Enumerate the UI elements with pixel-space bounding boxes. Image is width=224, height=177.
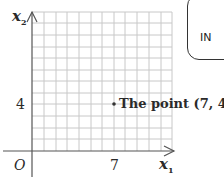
grid-lines: [32, 12, 172, 151]
point-label: The point (7, 4): [119, 97, 224, 110]
y-tick-label: 4: [16, 97, 25, 111]
callout-text: IN: [200, 31, 211, 44]
x-tick-label: 7: [110, 158, 119, 172]
y-axis-label: x2: [12, 9, 27, 26]
callout-box: IN: [187, 0, 224, 60]
axes: [3, 12, 174, 177]
x-axis-label: x1: [159, 157, 174, 174]
origin-label: O: [14, 158, 25, 172]
data-point: [112, 102, 116, 106]
